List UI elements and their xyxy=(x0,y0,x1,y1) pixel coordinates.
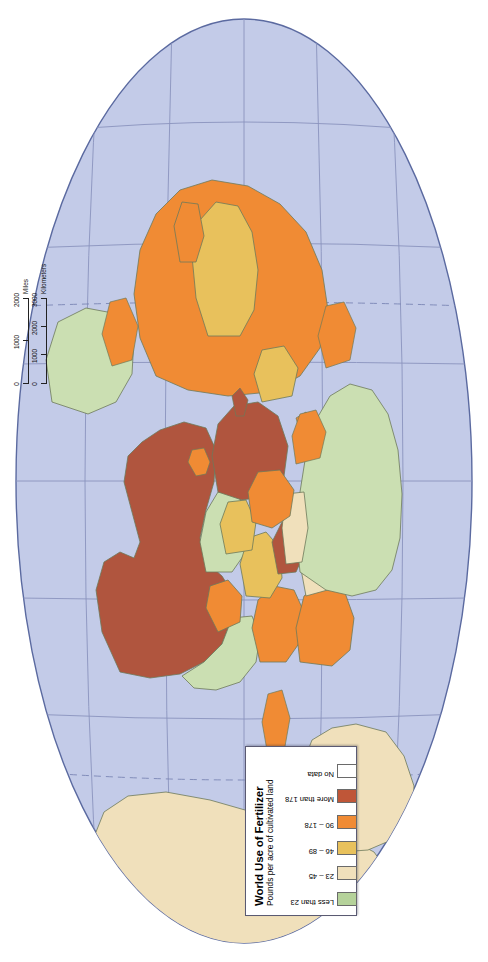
map-canvas xyxy=(0,0,488,962)
legend-swatch xyxy=(337,892,357,906)
legend-label: More than 178 xyxy=(282,796,334,804)
scale-tick-miles-1: 1000 xyxy=(14,335,20,349)
legend-item-23-45[interactable]: 23 – 45 xyxy=(282,858,357,881)
scale-unit-miles: Miles xyxy=(23,279,29,294)
scale-tick-km-3: 3000 xyxy=(32,293,38,307)
legend-item-more-than-178[interactable]: More than 178 xyxy=(282,781,357,804)
legend-label: 90 – 178 xyxy=(282,821,334,829)
legend-items: Less than 23 23 – 45 46 – 89 90 – 178 Mo xyxy=(282,755,357,906)
scale-bar-miles: 0 1000 2000 Miles xyxy=(14,264,29,384)
legend-item-less-than-23[interactable]: Less than 23 xyxy=(282,883,357,906)
legend-item-46-89[interactable]: 46 – 89 xyxy=(282,832,357,855)
legend-label: 46 – 89 xyxy=(282,847,334,855)
legend-subtitle: Pounds per acre of cultivated land xyxy=(266,755,275,906)
scale-unit-kilometers: Kilometers xyxy=(41,264,47,294)
legend-swatch xyxy=(337,764,357,778)
legend-swatch xyxy=(337,815,357,829)
scale-tick-km-1: 1000 xyxy=(32,349,38,363)
legend-item-90-178[interactable]: 90 – 178 xyxy=(282,806,357,829)
map-page: 0 1000 2000 Miles 0 1000 2000 xyxy=(0,0,488,962)
legend-swatch xyxy=(337,866,357,880)
scale-bar: 0 1000 2000 Miles 0 1000 2000 xyxy=(14,264,50,384)
scale-tick-km-0: 0 xyxy=(32,382,38,386)
scale-bar-kilometers: 0 1000 2000 3000 Kilometers xyxy=(32,264,47,384)
legend-label: No data xyxy=(282,770,334,778)
legend-swatch xyxy=(337,789,357,803)
map-legend: World Use of Fertilizer Pounds per acre … xyxy=(245,746,357,916)
world-map: 0 1000 2000 Miles 0 1000 2000 xyxy=(0,0,488,962)
scale-tick-km-2: 2000 xyxy=(32,321,38,335)
scale-tick-miles-0: 0 xyxy=(14,382,20,386)
legend-title: World Use of Fertilizer xyxy=(253,755,265,906)
legend-label: 23 – 45 xyxy=(282,873,334,881)
legend-item-no-data[interactable]: No data xyxy=(282,755,357,778)
legend-swatch xyxy=(337,841,357,855)
legend-label: Less than 23 xyxy=(282,898,334,906)
scale-tick-miles-2: 2000 xyxy=(14,293,20,307)
